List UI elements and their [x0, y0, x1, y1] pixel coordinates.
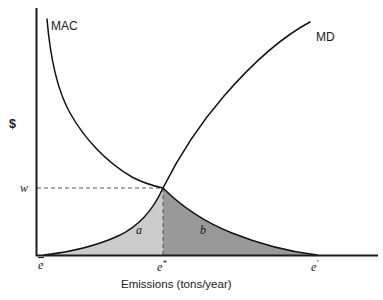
y-axis-title: $	[9, 118, 16, 131]
x-tick-e-star: e*	[157, 259, 167, 273]
e-bar-glyph: e	[38, 259, 43, 271]
x-tick-e-prime: e'	[311, 259, 318, 273]
region-b-label: b	[200, 224, 206, 236]
mac-curve-label: MAC	[51, 20, 78, 32]
price-label-w: w	[20, 182, 28, 194]
e-star-superscript: *	[162, 258, 167, 268]
region-a-label: a	[136, 224, 142, 236]
region-a-shape	[44, 188, 163, 255]
x-axis-title: Emissions (tons/year)	[121, 279, 232, 291]
overbar-mark	[38, 257, 44, 258]
region-b-shape	[163, 188, 317, 255]
figure-canvas: $ w MAC MD a b e e* e' Emissions (tons/y…	[0, 0, 383, 300]
md-curve-label: MD	[316, 31, 335, 43]
e-prime-superscript: '	[316, 258, 318, 268]
x-tick-e-bar: e	[38, 259, 43, 271]
economics-diagram	[0, 0, 383, 300]
